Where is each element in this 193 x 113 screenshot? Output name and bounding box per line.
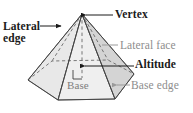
- pyramid-figure: Lateraledge Vertex Lateral face Altitude…: [0, 0, 193, 113]
- label-base-edge: Base edge: [131, 80, 179, 92]
- label-base: Base: [67, 80, 89, 91]
- pyramid-drawing: [0, 0, 193, 113]
- label-lateral-face: Lateral face: [120, 40, 176, 52]
- label-lateral-edge-line2: edge: [3, 33, 40, 45]
- label-vertex: Vertex: [115, 9, 148, 21]
- label-altitude: Altitude: [135, 59, 176, 71]
- label-lateral-edge: Lateraledge: [3, 21, 40, 45]
- label-lateral-edge-line1: Lateral: [3, 20, 40, 32]
